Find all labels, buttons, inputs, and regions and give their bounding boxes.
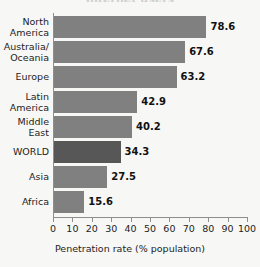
- x-tick: [247, 218, 248, 222]
- x-tick-label: 90: [222, 223, 234, 234]
- x-tick-label: 30: [105, 223, 117, 234]
- x-tick: [53, 218, 54, 222]
- category-label: WORLD: [0, 147, 49, 158]
- x-axis-title: Penetration rate (% population): [0, 243, 260, 254]
- bar: [54, 166, 107, 188]
- category-label: Latin America: [0, 92, 49, 113]
- chart-title-remnant: Internet users: [0, 0, 260, 2]
- x-tick: [111, 218, 112, 222]
- x-tick: [150, 218, 151, 222]
- x-tick-label: 20: [86, 223, 98, 234]
- category-label: North America: [0, 17, 49, 38]
- bar-value-label: 63.2: [181, 71, 206, 82]
- x-tick-label: 50: [144, 223, 156, 234]
- bar: [54, 191, 84, 213]
- category-label: Europe: [0, 72, 49, 83]
- bar-value-label: 15.6: [88, 196, 113, 207]
- bar: [54, 66, 177, 88]
- x-tick: [72, 218, 73, 222]
- bar-value-label: 67.6: [189, 46, 214, 57]
- bar-value-label: 42.9: [141, 96, 166, 107]
- bar: [54, 91, 137, 113]
- x-tick-label: 0: [50, 223, 56, 234]
- x-tick: [92, 218, 93, 222]
- category-label: Middle East: [0, 117, 49, 138]
- bar-row: Europe63.2: [0, 66, 260, 88]
- bar-row: WORLD34.3: [0, 141, 260, 163]
- bar-row: Middle East40.2: [0, 116, 260, 138]
- bar-row: Australia/ Oceania67.6: [0, 41, 260, 63]
- bar-value-label: 78.6: [210, 21, 235, 32]
- x-tick-label: 10: [66, 223, 78, 234]
- bar-row: Asia27.5: [0, 166, 260, 188]
- bar-row: North America78.6: [0, 16, 260, 38]
- category-label: Asia: [0, 172, 49, 183]
- x-tick-label: 60: [163, 223, 175, 234]
- x-tick: [228, 218, 229, 222]
- x-tick: [208, 218, 209, 222]
- bar: [54, 41, 185, 63]
- bar: [54, 16, 206, 38]
- bar-row: Latin America42.9: [0, 91, 260, 113]
- bar-value-label: 27.5: [111, 171, 136, 182]
- bar-value-label: 40.2: [136, 121, 161, 132]
- bar: [54, 141, 121, 163]
- x-tick-label: 100: [238, 223, 256, 234]
- bar: [54, 116, 132, 138]
- x-tick-label: 70: [183, 223, 195, 234]
- x-tick-label: 40: [125, 223, 137, 234]
- bar-chart: Internet users 0102030405060708090100 No…: [0, 0, 260, 267]
- x-tick: [189, 218, 190, 222]
- x-tick: [131, 218, 132, 222]
- x-tick-label: 80: [202, 223, 214, 234]
- x-tick: [169, 218, 170, 222]
- category-label: Africa: [0, 197, 49, 208]
- category-label: Australia/ Oceania: [0, 42, 49, 63]
- bar-row: Africa15.6: [0, 191, 260, 213]
- bar-value-label: 34.3: [125, 146, 150, 157]
